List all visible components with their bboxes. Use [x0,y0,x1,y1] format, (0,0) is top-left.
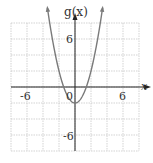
y-axis-label: g(x) [64,6,88,18]
axes [11,13,151,151]
y-tick-label-neg6: -6 [63,131,74,142]
function-graph [0,0,153,163]
x-axis-label: x [141,81,147,92]
x-tick-label-neg6: -6 [20,91,31,102]
origin-label: 0 [66,91,73,102]
y-tick-label-6: 6 [66,34,73,45]
x-tick-label-6: 6 [119,91,126,102]
